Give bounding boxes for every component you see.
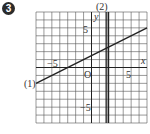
line-1-label: (1) bbox=[24, 78, 36, 90]
y-tick-pos5: 5 bbox=[83, 24, 88, 35]
x-axis-label: x bbox=[140, 55, 146, 66]
line-2-label: (2) bbox=[96, 1, 108, 13]
origin-label: O bbox=[84, 69, 91, 80]
coordinate-plane: x y O −5 5 5 −5 (1) (2) bbox=[0, 0, 150, 134]
x-tick-pos5: 5 bbox=[126, 69, 131, 80]
y-axis-label: y bbox=[93, 11, 99, 22]
y-tick-neg5: −5 bbox=[80, 102, 91, 113]
x-tick-neg5: −5 bbox=[47, 58, 58, 69]
